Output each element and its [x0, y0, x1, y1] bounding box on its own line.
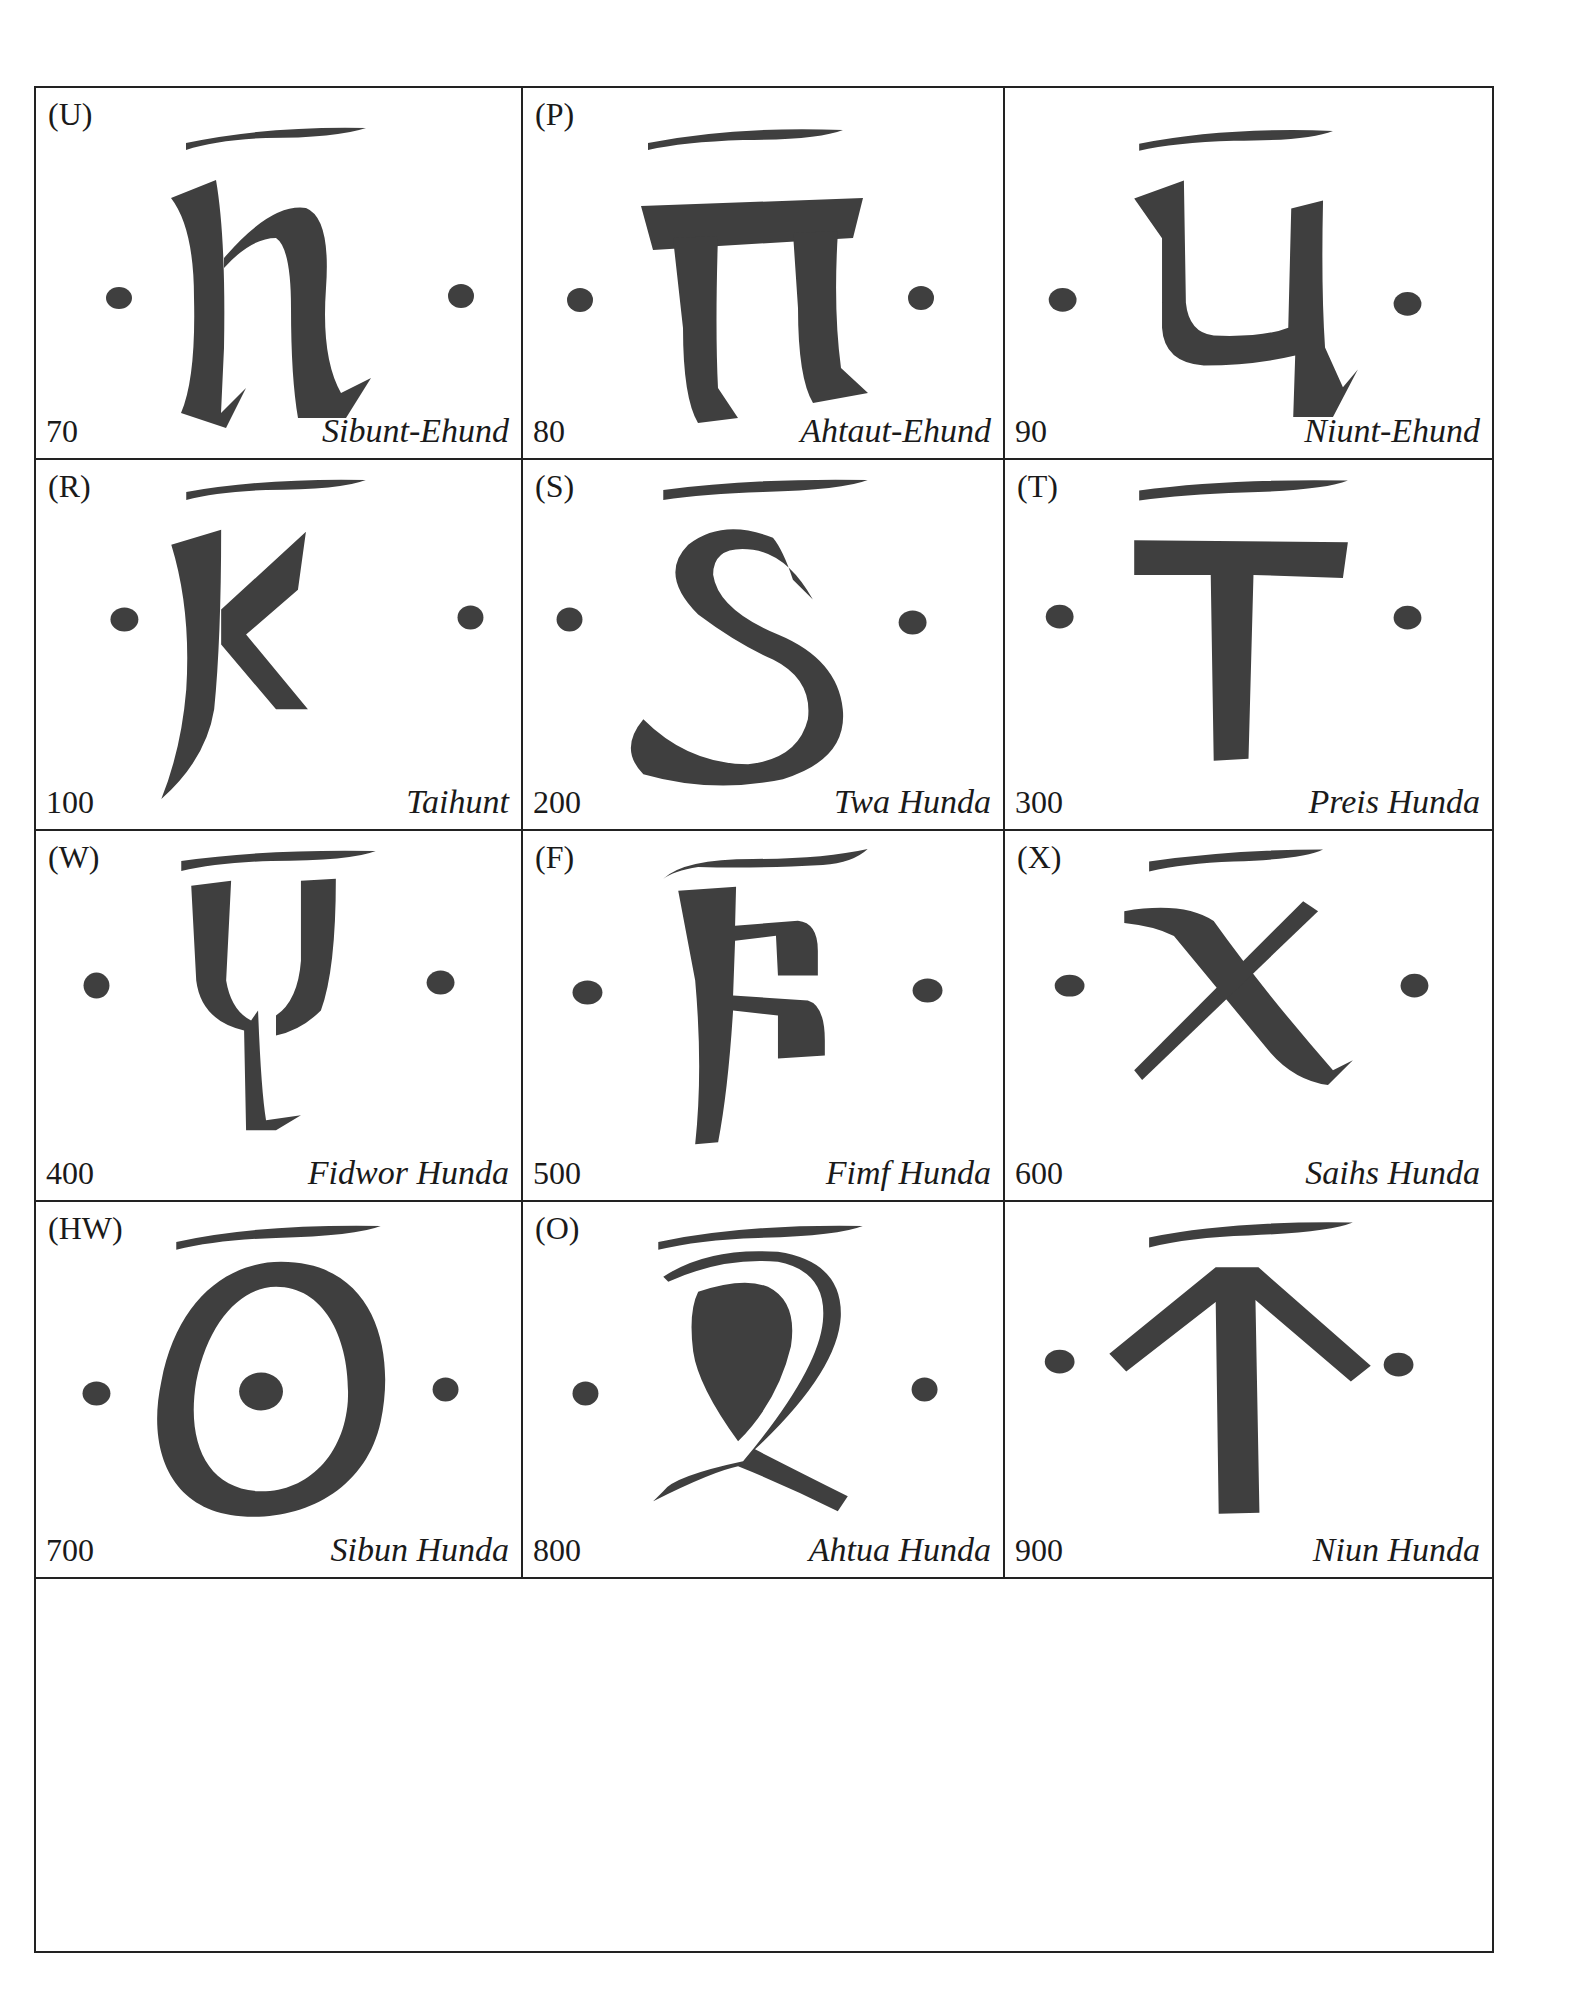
numeral-cell-600: (X) 600 Saihs Hunda [1005, 831, 1492, 1200]
numeral-value: 600 [1015, 1155, 1063, 1192]
empty-area [36, 1579, 1492, 1951]
numeral-name: Ahtaut-Ehund [800, 412, 991, 450]
table-row: (R) 100 Taihunt (S) 200 Twa Hunda [36, 460, 1492, 831]
hw-icon [36, 1202, 521, 1577]
numeral-name: Taihunt [406, 783, 509, 821]
r-icon [36, 460, 521, 829]
numeral-name: Niun Hunda [1313, 1531, 1480, 1569]
numeral-value: 100 [46, 784, 94, 821]
table-row: (HW) 700 Sibun Hunda (O) 800 Ahtua Hunda [36, 1202, 1492, 1579]
numeral-value: 300 [1015, 784, 1063, 821]
f-icon [523, 831, 1003, 1200]
numeral-value: 200 [533, 784, 581, 821]
numeral-name: Niunt-Ehund [1304, 412, 1480, 450]
numeral-cell-80: (P) 80 Ahtaut-Ehund [523, 88, 1005, 458]
s-icon [523, 460, 1003, 829]
table-row: (U) 70 Sibunt-Ehund (P) 80 Ahtau [36, 88, 1492, 460]
sampi-icon [1005, 1202, 1492, 1577]
numeral-cell-100: (R) 100 Taihunt [36, 460, 523, 829]
table-row: (W) 400 Fidwor Hunda (F) 500 Fimf Hunda [36, 831, 1492, 1202]
w-icon [36, 831, 521, 1200]
q-icon [1005, 88, 1492, 458]
numeral-value: 70 [46, 413, 78, 450]
numeral-value: 500 [533, 1155, 581, 1192]
numeral-name: Fimf Hunda [826, 1154, 991, 1192]
numeral-value: 800 [533, 1532, 581, 1569]
numeral-cell-70: (U) 70 Sibunt-Ehund [36, 88, 523, 458]
numeral-cell-90: 90 Niunt-Ehund [1005, 88, 1492, 458]
numeral-table: (U) 70 Sibunt-Ehund (P) 80 Ahtau [34, 86, 1494, 1953]
numeral-cell-300: (T) 300 Preis Hunda [1005, 460, 1492, 829]
numeral-cell-900: 900 Niun Hunda [1005, 1202, 1492, 1577]
numeral-cell-500: (F) 500 Fimf Hunda [523, 831, 1005, 1200]
numeral-value: 400 [46, 1155, 94, 1192]
numeral-name: Fidwor Hunda [308, 1154, 509, 1192]
numeral-name: Twa Hunda [834, 783, 991, 821]
numeral-cell-200: (S) 200 Twa Hunda [523, 460, 1005, 829]
x-icon [1005, 831, 1492, 1200]
numeral-value: 80 [533, 413, 565, 450]
numeral-value: 90 [1015, 413, 1047, 450]
numeral-cell-400: (W) 400 Fidwor Hunda [36, 831, 523, 1200]
t-icon [1005, 460, 1492, 829]
numeral-name: Ahtua Hunda [809, 1531, 991, 1569]
numeral-name: Saihs Hunda [1305, 1154, 1480, 1192]
p-icon [523, 88, 1003, 458]
numeral-value: 900 [1015, 1532, 1063, 1569]
numeral-name: Preis Hunda [1308, 783, 1480, 821]
u-icon [36, 88, 521, 458]
numeral-cell-800: (O) 800 Ahtua Hunda [523, 1202, 1005, 1577]
numeral-cell-700: (HW) 700 Sibun Hunda [36, 1202, 523, 1577]
numeral-value: 700 [46, 1532, 94, 1569]
numeral-name: Sibun Hunda [331, 1531, 510, 1569]
numeral-name: Sibunt-Ehund [322, 412, 509, 450]
o-icon [523, 1202, 1003, 1577]
